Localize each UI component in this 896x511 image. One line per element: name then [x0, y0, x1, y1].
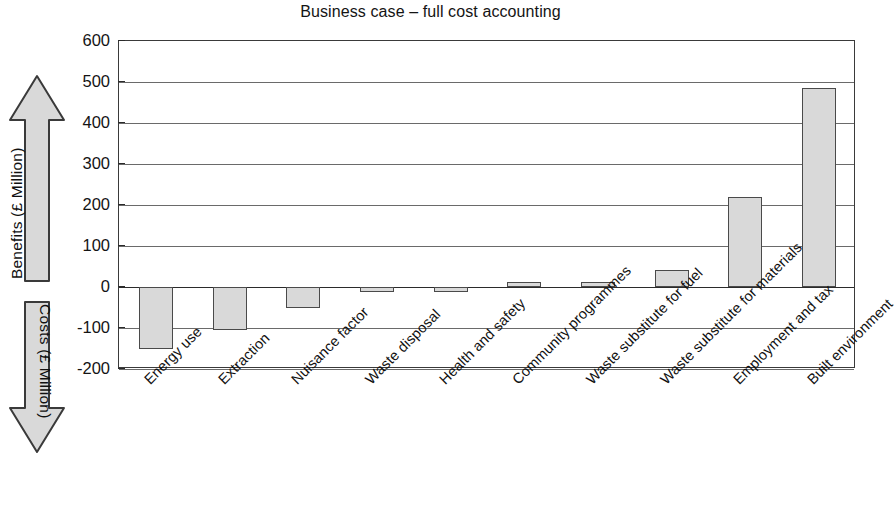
y-axis-tick-mark: [118, 286, 125, 287]
y-axis-tick-label: 0: [50, 277, 110, 296]
bar: [360, 287, 394, 292]
y-axis-tick-label: 400: [50, 113, 110, 132]
bar: [581, 282, 615, 287]
y-axis: 6005004003002001000-100-200: [42, 40, 110, 368]
y-axis-tick-label: 600: [50, 31, 110, 50]
gridline: [119, 123, 854, 124]
y-axis-tick-mark: [118, 81, 125, 82]
page-title: Business case – full cost accounting: [0, 3, 861, 21]
bar: [286, 287, 320, 308]
bar: [434, 287, 468, 292]
bar: [802, 88, 836, 287]
y-axis-tick-mark: [118, 40, 125, 41]
bar: [728, 197, 762, 287]
bar: [507, 282, 541, 287]
y-axis-tick-mark: [118, 368, 125, 369]
y-axis-tick-label: -200: [50, 359, 110, 378]
gridline: [119, 82, 854, 83]
gridline: [119, 369, 854, 370]
y-axis-tick-label: 300: [50, 154, 110, 173]
gridline: [119, 164, 854, 165]
y-axis-tick-mark: [118, 122, 125, 123]
y-axis-tick-label: 500: [50, 72, 110, 91]
benefits-axis-label: Benefits (£ Million): [8, 148, 26, 280]
y-axis-tick-label: 200: [50, 195, 110, 214]
bar: [139, 287, 173, 349]
y-axis-tick-mark: [118, 245, 125, 246]
bar: [655, 270, 689, 287]
y-axis-tick-mark: [118, 327, 125, 328]
plot-area: [118, 40, 855, 368]
y-axis-tick-mark: [118, 163, 125, 164]
y-axis-tick-label: -100: [50, 318, 110, 337]
y-axis-tick-mark: [118, 204, 125, 205]
y-axis-tick-label: 100: [50, 236, 110, 255]
bar: [213, 287, 247, 330]
